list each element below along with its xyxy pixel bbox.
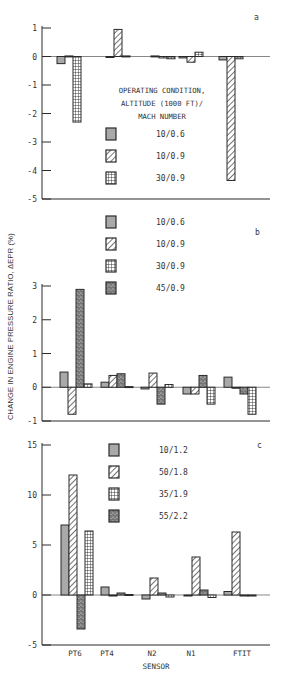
y-tick-label: 2 [32,316,37,325]
y-tick-label: -1 [27,81,37,90]
bar-PT6-10/1.2 [61,525,69,595]
bar-PT4-10/0.6 [101,382,109,387]
bar-N2-55/2.2 [158,593,166,595]
bar-N1-55/2.2 [200,590,208,595]
x-tick-label: N1 [186,649,195,658]
legend-swatch-grid [109,488,119,500]
chart-panel-a: 10-1-2-3-4-5aOPERATING CONDITION,ALTITUD… [27,13,270,204]
legend-swatch-stipple [106,282,116,294]
bar-FTIT-30/0.9 [235,57,243,59]
legend-label: 35/1.9 [159,490,188,499]
legend-swatch-grid [106,172,116,184]
bar-FTIT-10/1.2 [224,592,232,596]
legend-label: 30/0.9 [156,174,185,183]
bar-PT6-55/2.2 [77,595,85,629]
x-tick-label: PT6 [68,649,82,658]
x-tick-label: FTIT [233,649,252,658]
y-tick-label: -5 [27,195,37,204]
legend-swatch-grid [106,260,116,272]
panel-letter: a [254,13,259,22]
bar-N2-35/1.9 [166,595,174,597]
legend: 10/0.610/0.930/0.9 [106,128,185,184]
legend-swatch-gray [109,444,119,456]
y-tick-label: 5 [32,541,37,550]
bar-N2-10/0.9 [149,373,157,387]
bar-FTIT-45/0.9 [240,387,248,394]
legend-swatch-gray [106,128,116,140]
panel-letter: b [255,228,260,237]
bar-FTIT-35/1.9 [248,595,256,596]
bar-FTIT-10/0.9 [232,387,240,388]
legend-swatch-hatch [109,466,119,478]
bar-PT6-10/0.6 [60,372,68,387]
bar-N2-50/1.8 [150,578,158,595]
bar-N1-10/0.6 [179,57,187,58]
y-tick-label: 15 [27,441,37,450]
legend-label: 10/1.2 [159,446,188,455]
legend-label: 10/0.9 [156,152,185,161]
bar-PT6-30/0.9 [73,57,81,123]
y-tick-label: 1 [32,24,37,33]
bar-PT4-55/2.2 [117,593,125,595]
y-tick-label: 10 [27,491,37,500]
bar-PT4-35/1.9 [125,595,133,596]
y-tick-label: 0 [32,53,37,62]
legend-title-line: ALTITUDE (1000 FT)/ [121,99,203,108]
bar-N2-30/0.9 [165,385,173,388]
legend-swatch-stipple [109,510,119,522]
bar-FTIT-10/0.6 [224,377,232,387]
legend: 10/0.610/0.930/0.945/0.9 [106,216,185,294]
y-axis-label-text: CHANGE IN ENGINE PRESSURE RATIO, ΔEPR (%… [6,233,15,420]
bar-PT4-30/0.9 [122,56,130,57]
legend-label: 30/0.9 [156,262,185,271]
bar-N2-10/0.9 [159,57,167,58]
legend-label: 10/0.9 [156,240,185,249]
bar-N1-30/0.9 [207,387,215,404]
bar-FTIT-55/2.2 [240,595,248,596]
bar-PT6-35/1.9 [85,531,93,595]
bar-N2-10/0.6 [151,56,159,57]
legend: 10/1.250/1.835/1.955/2.2 [109,444,188,522]
bar-N2-45/0.9 [157,387,165,404]
y-tick-label: 3 [32,282,37,291]
x-tick-label: N2 [147,649,156,658]
legend-title-line: OPERATING CONDITION, [119,86,206,95]
bar-PT4-30/0.9 [125,387,133,388]
legend-title-line: MACH NUMBER [138,112,186,121]
bar-N1-10/1.2 [184,595,192,596]
figure-canvas: 10-1-2-3-4-5aOPERATING CONDITION,ALTITUD… [0,0,286,686]
bar-PT4-45/0.9 [117,374,125,388]
legend-swatch-hatch [106,238,116,250]
bar-PT4-10/0.6 [106,57,114,58]
bar-FTIT-30/0.9 [248,387,256,414]
bar-PT4-10/1.2 [101,587,109,595]
bar-N2-10/1.2 [142,595,150,599]
bar-PT4-10/0.9 [109,375,117,387]
bar-PT6-10/0.9 [68,387,76,414]
chart-panel-c: 151050-5c10/1.250/1.835/1.955/2.2 [27,441,270,650]
legend-swatch-hatch [106,150,116,162]
chart-panels: 10-1-2-3-4-5aOPERATING CONDITION,ALTITUD… [27,13,270,671]
y-tick-label: -2 [27,110,37,119]
bar-N1-35/1.9 [208,595,216,598]
bar-N2-30/0.9 [167,57,175,59]
legend-label: 45/0.9 [156,284,185,293]
x-axis-label: SENSOR [142,662,170,671]
bar-N1-10/0.6 [183,387,191,394]
y-tick-label: 0 [32,383,37,392]
x-tick-label: PT4 [100,649,114,658]
chart-panel-b: 3210-1b10/0.610/0.930/0.945/0.9 [27,216,270,426]
bar-PT6-10/0.9 [65,56,73,57]
legend-label: 55/2.2 [159,512,188,521]
legend-label: 50/1.8 [159,468,188,477]
legend-label: 10/0.6 [156,218,185,227]
legend-label: 10/0.6 [156,130,185,139]
bar-PT4-10/0.9 [114,29,122,56]
panel-letter: c [257,441,262,450]
bar-PT6-30/0.9 [84,384,92,387]
bar-N2-10/0.6 [141,387,149,389]
bar-N1-10/0.9 [187,57,195,63]
bar-PT6-50/1.8 [69,475,77,595]
bar-FTIT-50/1.8 [232,532,240,595]
bar-N1-30/0.9 [195,52,203,56]
